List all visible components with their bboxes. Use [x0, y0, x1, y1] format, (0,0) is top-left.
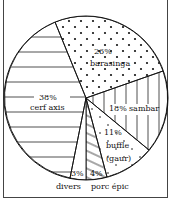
label-buffle-pct: 11%: [104, 128, 122, 137]
pie-chart: [0, 0, 172, 204]
label-divers-pct: 3%: [71, 169, 84, 178]
label-porc-name: porc épic: [91, 182, 129, 191]
label-cerf-pct: 38%: [39, 93, 57, 102]
label-barasinga-pct: 26%: [94, 47, 112, 56]
label-buffle-name2: (gaur): [106, 154, 131, 163]
label-sambar-pct: 18%: [109, 104, 127, 113]
label-buffle-name: buffle: [106, 141, 129, 150]
label-barasinga-name: barasinga: [90, 59, 130, 68]
label-sambar-name: sambar: [129, 104, 159, 113]
label-divers-name: divers: [56, 182, 81, 191]
label-porc-pct: 4%: [90, 169, 103, 178]
label-cerf-name: cerf axis: [30, 103, 65, 112]
